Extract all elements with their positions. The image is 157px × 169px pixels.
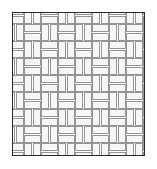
figure-root bbox=[0, 0, 157, 169]
basketweave-pattern bbox=[13, 13, 145, 156]
pattern-frame bbox=[12, 12, 145, 156]
